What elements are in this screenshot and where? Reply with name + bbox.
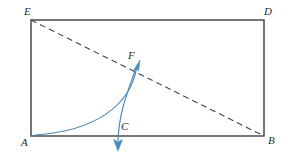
label-e: E: [24, 6, 31, 17]
label-d: D: [264, 6, 272, 17]
label-f: F: [128, 50, 135, 61]
label-a: A: [21, 137, 28, 148]
label-b: B: [268, 135, 275, 146]
arrowhead-f-icon: [134, 60, 140, 71]
label-c: C: [121, 121, 128, 132]
dashed-diagonal-eb: [31, 20, 264, 136]
figure-canvas: [0, 0, 293, 160]
geometry-figure: E D F C A B: [0, 0, 293, 160]
